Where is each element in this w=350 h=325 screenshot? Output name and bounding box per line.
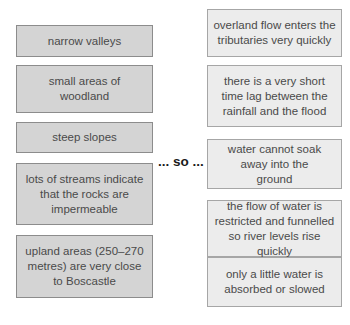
effect-box: water cannot soak away into the ground bbox=[207, 139, 342, 189]
effect-box: there is a very short time lag between t… bbox=[207, 65, 342, 127]
effect-box: the flow of water is restricted and funn… bbox=[207, 200, 342, 257]
effect-text: the flow of water is restricted and funn… bbox=[210, 199, 339, 259]
cause-box: upland areas (250–270 metres) are very c… bbox=[16, 235, 153, 298]
cause-text: lots of streams indicate that the rocks … bbox=[21, 172, 148, 217]
effect-text: water cannot soak away into the ground bbox=[226, 142, 323, 187]
effect-text: only a little water is absorbed or slowe… bbox=[214, 267, 335, 297]
cause-box: narrow valleys bbox=[16, 25, 153, 57]
effect-text: there is a very short time lag between t… bbox=[216, 74, 333, 119]
cause-text: steep slopes bbox=[52, 130, 117, 145]
cause-box: small areas of woodland bbox=[16, 65, 153, 113]
cause-box: steep slopes bbox=[16, 122, 153, 153]
effect-text: overland flow enters the tributaries ver… bbox=[212, 18, 337, 48]
so-connector: ... so ... bbox=[155, 154, 207, 169]
cause-text: small areas of woodland bbox=[39, 74, 130, 104]
cause-text: narrow valleys bbox=[48, 34, 122, 49]
effect-box: overland flow enters the tributaries ver… bbox=[207, 9, 342, 57]
cause-box: lots of streams indicate that the rocks … bbox=[16, 163, 153, 225]
cause-text: upland areas (250–270 metres) are very c… bbox=[25, 244, 144, 289]
effect-box: only a little water is absorbed or slowe… bbox=[207, 257, 342, 307]
